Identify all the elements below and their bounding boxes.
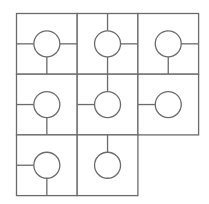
tile-r0-c0[interactable]	[17, 14, 78, 75]
node-circle-icon	[95, 92, 121, 118]
node-circle-icon	[34, 152, 60, 178]
node-circle-icon	[34, 92, 60, 118]
node-circle-icon	[95, 31, 121, 57]
tile-r0-c1[interactable]	[77, 14, 138, 75]
tile-r1-c0[interactable]	[17, 74, 78, 135]
puzzle-board	[0, 0, 209, 204]
tile-r2-c0[interactable]	[17, 135, 78, 196]
node-circle-icon	[95, 152, 121, 178]
tile-r0-c2[interactable]	[138, 14, 199, 75]
node-circle-icon	[34, 31, 60, 57]
node-circle-icon	[155, 92, 181, 118]
puzzle-grid	[0, 0, 209, 204]
tile-r2-c1[interactable]	[77, 135, 138, 196]
tile-r1-c2[interactable]	[138, 74, 199, 135]
tile-r1-c1[interactable]	[77, 74, 138, 135]
node-circle-icon	[155, 31, 181, 57]
